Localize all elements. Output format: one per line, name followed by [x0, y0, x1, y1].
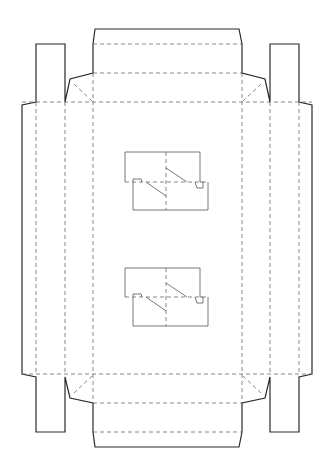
- dieline-canvas: Box die-cut template: [0, 0, 331, 467]
- upper-insert-cutout: [125, 152, 208, 210]
- outer-cut-outline: [22, 29, 312, 447]
- lower-insert-cutout: [125, 268, 208, 326]
- vertical-fold-lines: [36, 73, 299, 403]
- horizontal-fold-lines: [22, 44, 312, 432]
- corner-diagonal-folds: [74, 84, 261, 393]
